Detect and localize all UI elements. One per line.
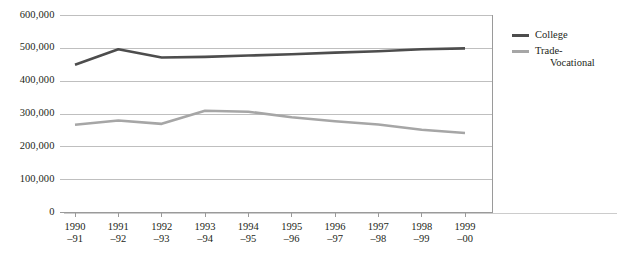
y-axis-tick-label: 100,000 (0, 173, 55, 184)
x-axis-tick-label: 1997–98 (355, 221, 401, 246)
chart-legend: College Trade- Vocational (512, 29, 595, 72)
x-axis-tick-label-line-1: 1997 (355, 221, 401, 234)
x-axis-tick-label-line-2: –97 (312, 233, 358, 246)
x-axis-tick-label: 1995–96 (269, 221, 315, 246)
x-axis-tick-label-line-1: 1995 (269, 221, 315, 234)
x-axis-tick-label-line-2: –94 (182, 233, 228, 246)
y-axis-tick-label: 600,000 (0, 9, 55, 20)
x-axis-tick-label-line-2: –93 (139, 233, 185, 246)
y-axis-tick-label: 500,000 (0, 41, 55, 52)
x-axis-tick-label-line-2: –95 (225, 233, 271, 246)
y-axis-tick-label: 0 (0, 206, 55, 217)
x-axis-tick-label-line-1: 1990 (52, 221, 98, 234)
x-axis-tick-label: 1999–00 (442, 221, 488, 246)
x-axis-tick-label-line-1: 1992 (139, 221, 185, 234)
x-axis-tick-label: 1994–95 (225, 221, 271, 246)
x-axis-tick-label-line-2: –91 (52, 233, 98, 246)
legend-label-college: College (535, 29, 595, 42)
x-axis-tick-label-line-1: 1993 (182, 221, 228, 234)
x-axis-tick-label-line-2: –00 (442, 233, 488, 246)
y-axis-tick-label: 400,000 (0, 74, 55, 85)
x-axis-tick-label: 1990–91 (52, 221, 98, 246)
legend-label-line-2: Vocational (550, 57, 595, 70)
x-axis-tick-label-line-1: 1996 (312, 221, 358, 234)
x-axis-tick-label-line-1: 1991 (95, 221, 141, 234)
x-axis-tick-label: 1993–94 (182, 221, 228, 246)
legend-item-college: College (512, 29, 595, 42)
x-axis-tick-label-line-2: –96 (269, 233, 315, 246)
legend-label-trade-vocational: Trade- Vocational (535, 45, 595, 70)
x-axis-tick-label-line-1: 1999 (442, 221, 488, 234)
x-axis-tick-label-line-2: –99 (399, 233, 445, 246)
y-axis-tick-label: 300,000 (0, 107, 55, 118)
x-axis-tick-label-line-2: –92 (95, 233, 141, 246)
x-axis-tick-label: 1998–99 (399, 221, 445, 246)
x-axis-tick-label: 1996–97 (312, 221, 358, 246)
legend-item-trade-vocational: Trade- Vocational (512, 45, 595, 70)
y-axis-tick-label: 200,000 (0, 140, 55, 151)
legend-swatch-college (512, 34, 529, 37)
x-axis-tick-label: 1992–93 (139, 221, 185, 246)
series-line-college (75, 48, 465, 64)
legend-label-line-1: Trade- (535, 45, 563, 56)
x-axis-tick-label-line-1: 1998 (399, 221, 445, 234)
x-axis-tick-label: 1991–92 (95, 221, 141, 246)
legend-swatch-trade-vocational (512, 50, 529, 53)
x-axis-tick-label-line-2: –98 (355, 233, 401, 246)
line-chart: 0100,000200,000300,000400,000500,000600,… (0, 0, 617, 269)
x-axis-tick-label-line-1: 1994 (225, 221, 271, 234)
